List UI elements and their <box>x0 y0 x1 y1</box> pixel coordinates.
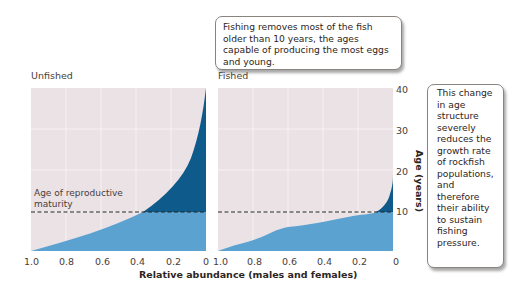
y-tick-20: 20 <box>396 166 408 177</box>
x-tick-unfished-0: 0 <box>203 256 209 267</box>
x-tick-fished-0.6: 0.6 <box>282 256 297 267</box>
y-axis-label: Age (years) <box>414 150 425 212</box>
x-tick-fished-0.4: 0.4 <box>317 256 332 267</box>
y-tick-40: 40 <box>396 84 408 95</box>
callout-age-structure: This change in age structure severely re… <box>427 84 504 268</box>
panel-title-unfished: Unfished <box>31 70 73 81</box>
y-tick-30: 30 <box>396 125 408 136</box>
maturity-annotation: Age of reproductive maturity <box>34 188 123 210</box>
maturity-annotation-line2: maturity <box>34 199 123 210</box>
maturity-annotation-line1: Age of reproductive <box>34 188 123 199</box>
fished-chart <box>218 88 393 251</box>
y-tick-10: 10 <box>396 206 408 217</box>
callout-fishing-removes: Fishing removes most of the fish older t… <box>215 16 402 70</box>
x-tick-unfished-0.6: 0.6 <box>95 256 110 267</box>
x-tick-unfished-1.0: 1.0 <box>24 256 39 267</box>
x-tick-fished-0.2: 0.2 <box>352 256 367 267</box>
unfished-chart <box>31 88 206 251</box>
x-tick-fished-0: 0 <box>393 256 399 267</box>
x-tick-unfished-0.2: 0.2 <box>166 256 181 267</box>
x-axis-label: Relative abundance (males and females) <box>139 269 357 280</box>
x-tick-fished-1.0: 1.0 <box>213 256 228 267</box>
x-tick-unfished-0.8: 0.8 <box>59 256 74 267</box>
x-tick-unfished-0.4: 0.4 <box>130 256 145 267</box>
callout-top-text: Fishing removes most of the fish older t… <box>223 21 389 67</box>
panel-title-fished: Fished <box>218 70 248 81</box>
callout-right-text: This change in age structure severely re… <box>437 87 494 248</box>
x-tick-fished-0.8: 0.8 <box>247 256 262 267</box>
